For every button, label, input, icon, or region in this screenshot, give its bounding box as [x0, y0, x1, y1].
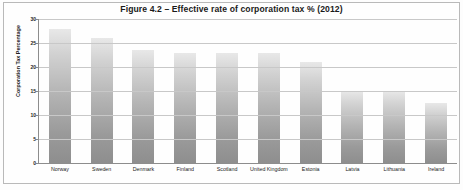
y-axis-tick-mark — [36, 43, 39, 44]
bar — [341, 91, 363, 163]
x-axis-category-label: Norway — [39, 166, 81, 172]
x-axis-category-label: United Kingdom — [248, 166, 290, 172]
chart-title: Figure 4.2 – Effective rate of corporati… — [0, 4, 463, 14]
y-axis-tick-mark — [36, 139, 39, 140]
y-axis-title: Corporation Tax Percentage — [15, 1, 21, 121]
gridline — [39, 43, 457, 44]
gridline — [39, 91, 457, 92]
gridline — [39, 115, 457, 116]
gridline — [39, 67, 457, 68]
y-axis-tick-mark — [36, 115, 39, 116]
y-axis-tick-label: 30 — [30, 16, 36, 22]
bar — [174, 53, 196, 163]
bar — [49, 29, 71, 163]
bar — [91, 38, 113, 163]
bar — [425, 103, 447, 163]
gridline — [39, 19, 457, 20]
bar — [216, 53, 238, 163]
y-axis-tick-mark — [36, 91, 39, 92]
x-axis-category-label: Estonia — [290, 166, 332, 172]
y-axis-tick-label: 10 — [30, 112, 36, 118]
x-axis-category-label: Denmark — [123, 166, 165, 172]
figure-container: Figure 4.2 – Effective rate of corporati… — [0, 0, 463, 190]
plot-area: 051015202530NorwaySwedenDenmarkFinlandSc… — [38, 19, 457, 164]
y-axis-tick-label: 15 — [30, 88, 36, 94]
x-axis-category-label: Sweden — [81, 166, 123, 172]
y-axis-tick-label: 5 — [33, 136, 36, 142]
x-axis-category-label: Ireland — [415, 166, 457, 172]
y-axis-tick-mark — [36, 67, 39, 68]
y-axis-tick-mark — [36, 19, 39, 20]
y-axis-tick-label: 25 — [30, 40, 36, 46]
gridline — [39, 139, 457, 140]
bar — [258, 53, 280, 163]
x-axis-category-label: Scotland — [206, 166, 248, 172]
bar — [383, 91, 405, 163]
y-axis-tick-mark — [36, 163, 39, 164]
x-axis-category-label: Latvia — [332, 166, 374, 172]
x-axis-category-label: Finland — [164, 166, 206, 172]
bar — [300, 62, 322, 163]
y-axis-tick-label: 20 — [30, 64, 36, 70]
x-axis-category-label: Lithuania — [373, 166, 415, 172]
y-axis-tick-label: 0 — [33, 160, 36, 166]
